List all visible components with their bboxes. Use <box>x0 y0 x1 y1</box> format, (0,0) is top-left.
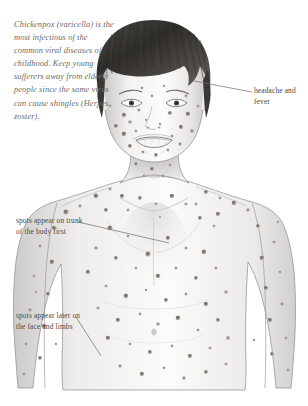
nose <box>145 106 161 129</box>
leader-line-trunk <box>78 222 169 243</box>
mouth <box>134 135 174 148</box>
torso-group <box>14 176 296 390</box>
intro-paragraph: Chickenpox (varicella) is the most infec… <box>14 18 118 123</box>
callout-headache-and-fever: headache and fever <box>254 86 308 107</box>
callout-spots-face-and-limbs: spots appear later on the face and limbs <box>16 311 82 332</box>
neck-group <box>120 150 189 183</box>
eyes <box>119 90 189 106</box>
callout-spots-on-trunk: spots appear on trunk of the body first <box>16 216 86 237</box>
leader-line-headache <box>194 81 252 92</box>
illustration-page: Chickenpox (varicella) is the most infec… <box>0 0 308 406</box>
